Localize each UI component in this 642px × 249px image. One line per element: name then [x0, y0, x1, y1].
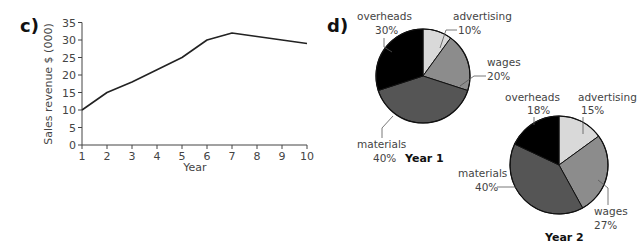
y-tick-label: 35 — [62, 17, 76, 30]
value-wages-y2: 27% — [594, 219, 617, 231]
y-axis-title: Sales revenue $ (000) — [42, 23, 55, 144]
x-tick-label: 1 — [79, 150, 86, 163]
sales-revenue-line — [82, 33, 307, 110]
label-advertising-y2: advertising — [578, 91, 637, 103]
line-chart: 05101520253035 12345678910 Sales revenue… — [42, 17, 314, 175]
y-tick-label: 20 — [62, 69, 76, 82]
label-wages-y2: wages — [594, 205, 628, 217]
label-advertising-y1: advertising — [453, 10, 512, 22]
x-tick-label: 10 — [300, 150, 314, 163]
x-axis-title: Year — [182, 161, 207, 174]
value-advertising-y1: 10% — [458, 24, 481, 36]
part-d-label: d) — [327, 15, 348, 36]
value-advertising-y2: 15% — [581, 104, 604, 116]
pie-title-year-1: Year 1 — [404, 152, 444, 165]
pie-title-year-2: Year 2 — [544, 231, 584, 244]
part-c-label: c) — [20, 15, 39, 36]
x-tick-label: 8 — [254, 150, 261, 163]
value-overheads-y1: 30% — [375, 24, 398, 36]
label-overheads-y2: overheads — [505, 91, 560, 103]
x-tick-label: 2 — [104, 150, 111, 163]
value-wages-y1: 20% — [487, 70, 510, 82]
value-overheads-y2: 18% — [527, 104, 550, 116]
pie-chart-year-2 — [510, 116, 608, 214]
y-tick-label: 0 — [69, 139, 76, 152]
y-tick-label: 5 — [69, 122, 76, 135]
x-tick-label: 3 — [129, 150, 136, 163]
label-materials-y1: materials — [357, 138, 406, 150]
value-materials-y1: 40% — [373, 152, 396, 164]
x-tick-label: 4 — [154, 150, 161, 163]
label-overheads-y1: overheads — [357, 10, 412, 22]
x-tick-label: 7 — [229, 150, 236, 163]
label-materials-y2: materials — [458, 167, 507, 179]
y-tick-label: 15 — [62, 87, 76, 100]
y-tick-label: 30 — [62, 34, 76, 47]
x-tick-label: 9 — [279, 150, 286, 163]
pie-chart-year-1 — [376, 29, 470, 123]
y-tick-label: 25 — [62, 52, 76, 65]
figure-canvas: c) d) 05101520253035 12345678910 Sales r… — [0, 0, 642, 249]
y-axis: 05101520253035 — [62, 17, 82, 153]
y-tick-label: 10 — [62, 104, 76, 117]
value-materials-y2: 40% — [475, 181, 498, 193]
label-wages-y1: wages — [487, 56, 521, 68]
leader-materials-y1 — [382, 116, 393, 138]
